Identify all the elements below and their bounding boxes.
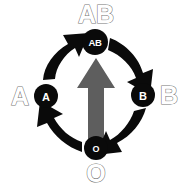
node-o[interactable]: O <box>84 136 108 160</box>
outer-label-b: B <box>160 81 178 109</box>
outer-label-o: O <box>86 159 105 187</box>
outer-label-ab: AB <box>78 0 114 28</box>
arrow-a-to-ab <box>43 33 89 80</box>
node-b-label: B <box>139 90 147 102</box>
node-b[interactable]: B <box>131 83 155 107</box>
blood-group-cycle-diagram: AB B O A AB B O A <box>0 0 188 195</box>
outer-label-a: A <box>11 82 29 110</box>
arrow-o-to-a <box>37 101 82 152</box>
node-ab-label: AB <box>88 37 102 48</box>
node-ab[interactable]: AB <box>82 29 108 55</box>
node-a-label: A <box>42 91 50 103</box>
node-o-label: O <box>92 144 99 154</box>
diagram-canvas: AB B O A AB B O A <box>0 0 188 195</box>
node-a[interactable]: A <box>34 84 58 108</box>
